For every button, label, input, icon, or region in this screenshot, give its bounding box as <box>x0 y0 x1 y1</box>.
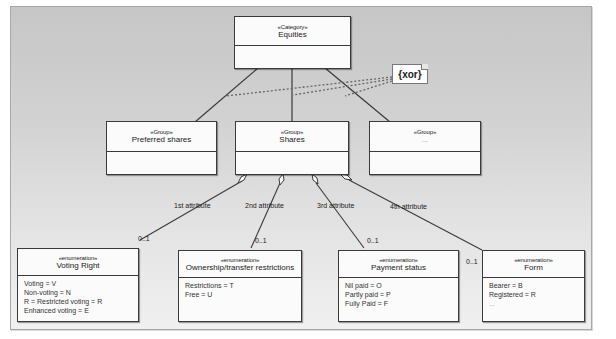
enum-literal: Enhanced voting = E <box>24 306 132 315</box>
class-name: ... <box>422 135 429 144</box>
role-label-3: 3rd attribute <box>317 202 354 209</box>
note-text: {xor} <box>398 69 421 80</box>
enum-form[interactable]: «enumeration» Form Bearer = B Registered… <box>482 250 585 322</box>
enum-literal: Nil paid = O <box>345 281 452 290</box>
assoc-payment <box>316 183 364 248</box>
diamond-3 <box>312 174 318 184</box>
link-equities-other <box>325 68 390 122</box>
class-equities[interactable]: «Category» Equities <box>234 16 351 69</box>
group-shares[interactable]: «Group» Shares <box>235 121 349 175</box>
role-label-1: 1st attribute <box>174 202 211 209</box>
class-name: Payment status <box>371 263 426 272</box>
diamond-2 <box>279 174 284 185</box>
class-name: Equities <box>278 30 306 39</box>
assoc-voting <box>140 181 242 240</box>
enum-literal: Bearer = B <box>489 281 578 290</box>
enum-literal: Voting = V <box>24 279 132 288</box>
enum-literal: Registered = R <box>489 290 578 299</box>
diamond-1 <box>238 174 247 183</box>
class-name: Preferred shares <box>132 135 192 144</box>
class-name: Voting Right <box>56 261 99 270</box>
multiplicity-2: 0..1 <box>255 237 267 244</box>
group-preferred-shares[interactable]: «Group» Preferred shares <box>106 121 217 175</box>
note-fold-corner <box>421 64 428 70</box>
multiplicity-4: 0..1 <box>466 258 478 265</box>
class-name: Shares <box>279 135 304 144</box>
enum-ownership-transfer[interactable]: «enumeration» Ownership/transfer restric… <box>178 250 302 322</box>
enum-literal: R = Restricted voting = R <box>24 297 132 306</box>
enum-voting-right[interactable]: «enumeration» Voting Right Voting = V No… <box>17 248 139 322</box>
role-label-4: 4th attribute <box>390 203 427 210</box>
multiplicity-3: 0..1 <box>367 237 379 244</box>
enum-literal: Restrictions = T <box>185 281 295 290</box>
enum-literal: Partly paid = P <box>345 290 452 299</box>
enum-literal: Fully Paid = F <box>345 299 452 308</box>
xor-line-right <box>345 81 392 96</box>
link-equities-preferred <box>195 68 258 122</box>
class-name: Form <box>524 263 543 272</box>
xor-line-left <box>226 77 392 96</box>
class-name: Ownership/transfer restrictions <box>186 263 294 272</box>
enum-literal: Non-voting = N <box>24 288 132 297</box>
enum-literal: ... <box>489 299 578 308</box>
multiplicity-1: 0..1 <box>138 235 150 242</box>
group-other[interactable]: «Group» ... <box>369 121 481 175</box>
enum-payment-status[interactable]: «enumeration» Payment status Nil paid = … <box>338 250 459 322</box>
role-label-2: 2nd attribute <box>245 202 284 209</box>
enum-literal: Free = U <box>185 290 295 299</box>
